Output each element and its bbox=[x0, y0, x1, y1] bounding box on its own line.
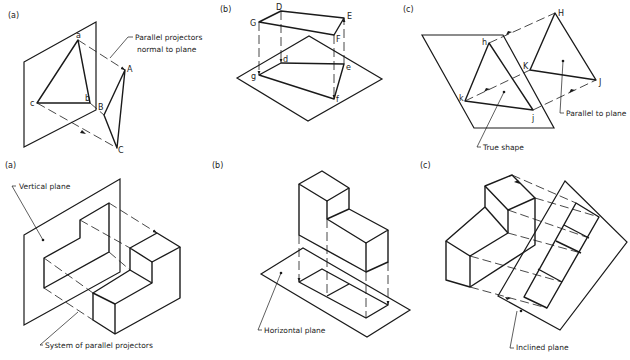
object-body bbox=[299, 184, 388, 272]
object-step bbox=[446, 186, 508, 256]
projector-line bbox=[465, 70, 530, 101]
annotation-text: Parallel to plane bbox=[566, 109, 627, 118]
object-quad-DEFG bbox=[259, 11, 344, 35]
point-label: E bbox=[347, 12, 352, 21]
bottom-figure-c: (c) Inclined plane bbox=[420, 161, 627, 352]
projector-line bbox=[533, 80, 596, 110]
object-top-face bbox=[299, 171, 349, 201]
point-label: h bbox=[482, 38, 487, 47]
projector-line bbox=[489, 13, 555, 43]
arrowhead-icon bbox=[506, 31, 512, 35]
object-triangle-HKJ bbox=[530, 13, 596, 80]
object-triangle-ABC bbox=[104, 70, 125, 148]
projector-line bbox=[512, 175, 576, 203]
point-label: B bbox=[98, 103, 104, 112]
point-label: g bbox=[251, 72, 256, 81]
projector-line bbox=[508, 233, 581, 253]
annotation-text: System of parallel projectors bbox=[45, 341, 153, 350]
object-edge bbox=[327, 209, 349, 219]
projected-edge bbox=[538, 269, 562, 282]
figure-label: (b) bbox=[220, 5, 231, 14]
annotation-text: Parallel projectors bbox=[135, 33, 202, 42]
top-figure-c: (c) h k j H K J Parallel to plane True s… bbox=[403, 5, 627, 152]
point-label: C bbox=[118, 146, 124, 155]
point-label: H bbox=[558, 9, 564, 18]
point-label: D bbox=[276, 3, 282, 12]
point-label: J bbox=[598, 78, 601, 87]
point-label: G bbox=[250, 19, 256, 28]
point-label: K bbox=[523, 62, 529, 71]
leader-line bbox=[258, 273, 281, 330]
annotation-text: normal to plane bbox=[137, 45, 197, 54]
projector-line bbox=[109, 203, 157, 233]
object-edge bbox=[130, 270, 152, 283]
projector-line bbox=[470, 287, 547, 308]
projection-plane bbox=[24, 22, 96, 147]
annotation-text: True shape bbox=[482, 143, 524, 152]
point-label: f bbox=[336, 95, 339, 104]
leader-line bbox=[477, 92, 504, 147]
true-shape-triangle-hkj bbox=[465, 43, 533, 110]
leader-line bbox=[560, 61, 564, 113]
point-label: a bbox=[76, 31, 81, 40]
top-figure-b: (b) D E F G d e f g bbox=[220, 3, 382, 121]
figure-label: (c) bbox=[403, 5, 414, 14]
figure-label: (c) bbox=[420, 161, 431, 170]
leader-line bbox=[110, 37, 133, 58]
point-label: e bbox=[346, 63, 351, 72]
point-label: k bbox=[459, 94, 464, 103]
object-body bbox=[446, 198, 535, 287]
projected-outline bbox=[44, 203, 109, 288]
top-figure-a: (a) a b c A B C Parallel projectors norm… bbox=[8, 11, 202, 155]
projected-outline bbox=[299, 269, 388, 318]
object-top-face bbox=[130, 233, 180, 262]
annotation-text: Inclined plane bbox=[516, 343, 569, 352]
figure-label: (a) bbox=[8, 11, 19, 20]
figure-label: (b) bbox=[212, 161, 223, 170]
annotation-text: Vertical plane bbox=[19, 182, 71, 191]
projected-edge bbox=[564, 225, 589, 238]
vertical-plane bbox=[24, 179, 120, 325]
projection-diagram: (a) a b c A B C Parallel projectors norm… bbox=[0, 0, 630, 360]
point-label: c bbox=[30, 99, 34, 108]
object-top-face bbox=[485, 175, 535, 210]
projector-line bbox=[44, 288, 93, 320]
bottom-figure-b: (b) Horizontal plane bbox=[212, 161, 410, 337]
projected-edge bbox=[327, 284, 349, 296]
annotation-text: Horizontal plane bbox=[264, 326, 326, 335]
projector-line bbox=[37, 103, 117, 148]
arrowhead-icon bbox=[484, 88, 490, 92]
object-body bbox=[93, 247, 180, 334]
leader-line bbox=[12, 186, 43, 240]
point-label: A bbox=[127, 65, 133, 74]
point-label: d bbox=[283, 55, 288, 64]
arrowhead-icon bbox=[80, 130, 86, 134]
plane-dot bbox=[520, 310, 523, 313]
bottom-figure-a: (a) Vertical plane System of parallel pr… bbox=[5, 161, 180, 350]
projected-quad-defg bbox=[259, 63, 344, 99]
object-edge bbox=[485, 207, 508, 233]
projector-line bbox=[80, 220, 130, 248]
projector-line bbox=[535, 198, 599, 217]
projector-line bbox=[78, 40, 125, 70]
projected-triangle-abc bbox=[37, 40, 90, 103]
projector-line bbox=[44, 258, 93, 293]
inclined-plane bbox=[498, 181, 627, 330]
arrowhead-icon bbox=[569, 89, 575, 93]
point-label: j bbox=[531, 114, 534, 123]
point-label: F bbox=[336, 35, 341, 44]
projector-line bbox=[508, 210, 589, 238]
point-label: b bbox=[85, 94, 90, 103]
figure-label: (a) bbox=[5, 161, 16, 170]
